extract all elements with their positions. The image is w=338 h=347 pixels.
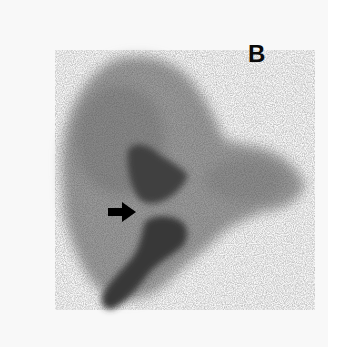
frame-edge (328, 0, 338, 347)
scintigraphy-image (0, 0, 338, 347)
panel-label: B (248, 42, 265, 66)
scintigraphy-figure: B (0, 0, 338, 347)
arrow-right-icon (108, 202, 136, 222)
